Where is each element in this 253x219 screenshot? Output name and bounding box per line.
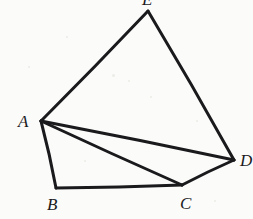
paper-speck xyxy=(28,66,30,68)
edge-B-A xyxy=(41,121,56,188)
paper-speck xyxy=(150,96,152,98)
diagonal-A-C xyxy=(41,121,182,185)
geometry-figure: A B C D E xyxy=(0,0,253,219)
vertex-label-A: A xyxy=(18,113,28,130)
vertex-label-B: B xyxy=(47,196,57,213)
paper-speck xyxy=(128,80,130,82)
edge-E-D xyxy=(148,11,234,160)
edge-A-E xyxy=(41,11,148,121)
paper-speck xyxy=(66,36,68,38)
diagonal-A-D xyxy=(41,121,234,160)
edge-C-B xyxy=(56,185,182,188)
paper-speck xyxy=(84,160,86,162)
figure-canvas xyxy=(0,0,253,219)
edge-layer xyxy=(41,11,234,188)
edge-D-C xyxy=(182,160,234,185)
paper-speck xyxy=(214,200,216,202)
paper-speck xyxy=(196,120,198,122)
paper-speck xyxy=(112,74,115,77)
vertex-label-E: E xyxy=(142,0,152,8)
vertex-label-C: C xyxy=(180,195,191,212)
vertex-label-D: D xyxy=(240,152,252,169)
